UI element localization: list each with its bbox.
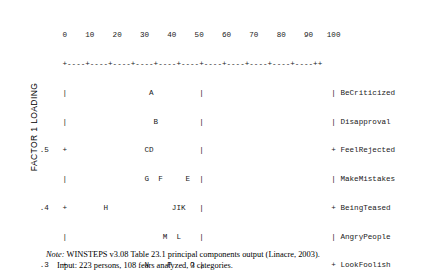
footnote-note-label: Note: (46, 250, 65, 259)
footnote-line-2: Input: 223 persons, 108 fears analyzed, … (46, 261, 406, 272)
principal-components-plot: FACTOR 1 LOADING 0 10 20 30 40 50 60 70 … (0, 0, 440, 278)
x-axis-top-labels: 0 10 20 30 40 50 60 70 80 90 100 (26, 31, 395, 41)
footnote: Note: WINSTEPS v3.08 Table 23.1 principa… (46, 250, 406, 271)
footnote-line-1: WINSTEPS v3.08 Table 23.1 principal comp… (65, 250, 320, 259)
x-axis-top-rule: +----+----+----+----+----+----+----+----… (26, 60, 395, 70)
plot-row: | G F E | | MakeMistakes (26, 175, 395, 185)
plot-row: .5 + CD | + FeelRejected (26, 146, 395, 156)
ascii-plot-canvas: 0 10 20 30 40 50 60 70 80 90 100 +----+-… (26, 12, 395, 278)
plot-row: .4 + H JIK | + BeingTeased (26, 204, 395, 214)
plot-row: | B | | Disapproval (26, 118, 395, 128)
plot-row: | A | | BeCriticized (26, 89, 395, 99)
plot-row: | M L | | AngryPeople (26, 233, 395, 243)
